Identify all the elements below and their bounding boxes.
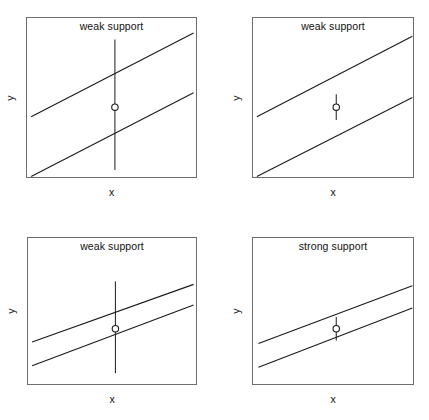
upper-bound-line [258,286,412,344]
panel-plot-lines [0,0,429,420]
data-point-marker [333,326,339,332]
figure-canvas: weak supportxyweak supportxyweak support… [0,0,429,420]
lower-bound-line [258,308,412,367]
